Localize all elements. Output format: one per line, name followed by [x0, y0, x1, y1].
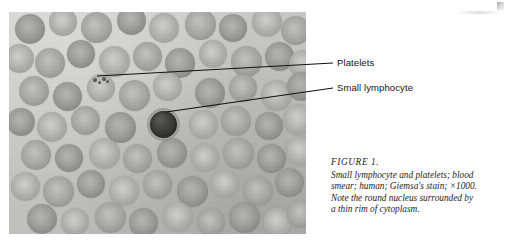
erythrocyte — [81, 12, 112, 43]
erythrocyte — [119, 80, 150, 111]
erythrocyte — [27, 204, 57, 234]
caption-line-1: Small lymphocyte and platelets; blood — [331, 170, 511, 182]
erythrocyte — [89, 138, 120, 169]
erythrocyte — [71, 106, 100, 135]
erythrocyte — [11, 172, 40, 201]
erythrocyte — [35, 48, 65, 78]
platelet — [93, 78, 97, 82]
erythrocyte — [281, 16, 306, 45]
erythrocyte — [37, 112, 67, 142]
caption-line-4: a thin rim of cytoplasm. — [331, 204, 511, 216]
erythrocyte — [61, 208, 89, 234]
erythrocyte — [223, 138, 254, 169]
erythrocyte — [221, 106, 251, 136]
erythrocyte — [255, 112, 283, 140]
erythrocyte — [197, 208, 225, 234]
platelet — [106, 80, 109, 83]
callout-label-lymphocyte: Small lymphocyte — [337, 82, 413, 93]
scan-artifact — [497, 2, 504, 10]
erythrocyte — [21, 140, 51, 170]
erythrocyte — [189, 110, 218, 139]
erythrocyte — [229, 74, 257, 102]
photomicrograph — [9, 12, 306, 234]
figure-number: FIGURE 1. — [331, 157, 511, 169]
platelet — [98, 81, 101, 84]
figure-caption: FIGURE 1. Small lymphocyte and platelets… — [331, 157, 511, 216]
erythrocyte — [229, 202, 260, 233]
erythrocyte — [231, 46, 262, 77]
erythrocyte — [195, 78, 225, 108]
erythrocyte — [53, 82, 82, 111]
erythrocyte — [19, 76, 49, 106]
erythrocyte — [123, 144, 152, 173]
erythrocyte — [55, 144, 83, 172]
erythrocyte — [211, 170, 239, 198]
erythrocyte — [15, 14, 45, 44]
erythrocyte — [219, 14, 247, 42]
erythrocyte — [191, 144, 219, 172]
erythrocyte — [275, 168, 304, 197]
erythrocyte — [133, 42, 162, 71]
erythrocyte — [257, 144, 286, 173]
caption-line-2: smear; human; Giemsa's stain; ×1000. — [331, 181, 511, 193]
erythrocyte — [95, 202, 126, 233]
erythrocyte — [283, 104, 306, 135]
erythrocyte — [153, 72, 182, 101]
erythrocyte — [87, 74, 115, 102]
cytoplasm-rim — [147, 108, 180, 141]
erythrocyte — [99, 46, 130, 77]
callout-label-platelets: Platelets — [337, 57, 374, 68]
erythrocyte — [129, 208, 158, 234]
scan-smudge — [455, 11, 503, 14]
caption-line-3: Note the round nucleus surrounded by — [331, 193, 511, 205]
figure-page: Platelets Small lymphocyte FIGURE 1. Sma… — [0, 0, 516, 251]
erythrocyte — [43, 176, 74, 207]
erythrocyte — [77, 170, 105, 198]
erythrocyte — [199, 40, 227, 68]
erythrocyte — [163, 202, 193, 232]
erythrocyte — [149, 13, 179, 43]
erythrocyte — [67, 40, 95, 68]
erythrocyte — [157, 138, 187, 168]
erythrocyte — [143, 170, 172, 199]
small-lymphocyte — [150, 111, 177, 138]
